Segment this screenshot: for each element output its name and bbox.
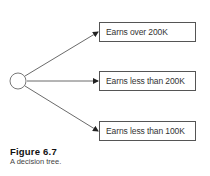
caption-text: A decision tree.: [10, 157, 61, 166]
outcome-label: Earns less than 100K: [106, 126, 185, 136]
figure-caption: Figure 6.7 A decision tree.: [10, 146, 61, 166]
outcome-box-over-200k: Earns over 200K: [99, 22, 196, 42]
decision-node: [10, 73, 26, 89]
branch-arrow-1: [25, 32, 98, 76]
outcome-label: Earns over 200K: [106, 27, 168, 37]
outcome-box-less-than-100k: Earns less than 100K: [99, 121, 196, 141]
outcome-box-less-than-200k: Earns less than 200K: [99, 71, 196, 91]
branch-arrow-3: [25, 86, 98, 131]
caption-title: Figure 6.7: [10, 146, 61, 157]
outcome-label: Earns less than 200K: [106, 76, 185, 86]
